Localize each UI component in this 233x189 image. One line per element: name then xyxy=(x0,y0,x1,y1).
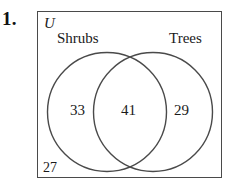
venn-diagram-figure: 1. U Shrubs Trees 33 41 29 27 xyxy=(0,0,233,189)
count-trees-only: 29 xyxy=(174,103,189,118)
count-outside-sets: 27 xyxy=(43,161,57,175)
set-label-trees: Trees xyxy=(169,31,202,46)
set-label-shrubs: Shrubs xyxy=(57,31,99,46)
count-intersection: 41 xyxy=(121,103,136,118)
problem-number: 1. xyxy=(2,9,17,28)
count-shrubs-only: 33 xyxy=(70,103,85,118)
universal-set-label: U xyxy=(44,16,55,31)
